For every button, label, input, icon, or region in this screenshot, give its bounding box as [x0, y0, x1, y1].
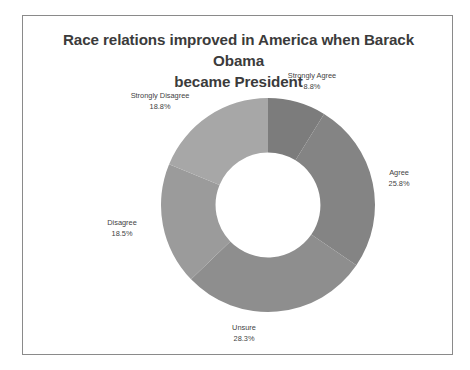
slice-label-agree-value: 25.8% — [371, 179, 427, 190]
slice-label-unsure: Unsure 28.3% — [213, 323, 275, 344]
slice-label-disagree: Disagree 18.5% — [88, 218, 156, 239]
slice-label-strongly-agree-value: 8.8% — [266, 82, 358, 93]
slice-label-strongly-agree: Strongly Agree 8.8% — [266, 71, 358, 92]
donut-chart-area: Strongly Agree 8.8% Agree 25.8% Unsure 2… — [23, 16, 454, 356]
slice-label-strongly-disagree: Strongly Disagree 18.8% — [105, 91, 215, 112]
slice-label-agree: Agree 25.8% — [371, 168, 427, 189]
slice-label-unsure-value: 28.3% — [213, 334, 275, 345]
donut-slice-group — [161, 98, 375, 312]
slice-label-unsure-name: Unsure — [213, 323, 275, 334]
slice-label-disagree-name: Disagree — [88, 218, 156, 229]
chart-frame: Race relations improved in America when … — [22, 15, 453, 355]
slice-label-disagree-value: 18.5% — [88, 229, 156, 240]
slice-label-strongly-disagree-value: 18.8% — [105, 102, 215, 113]
slice-label-agree-name: Agree — [371, 168, 427, 179]
slice-label-strongly-disagree-name: Strongly Disagree — [105, 91, 215, 102]
donut-chart — [159, 96, 377, 314]
slice-label-strongly-agree-name: Strongly Agree — [266, 71, 358, 82]
